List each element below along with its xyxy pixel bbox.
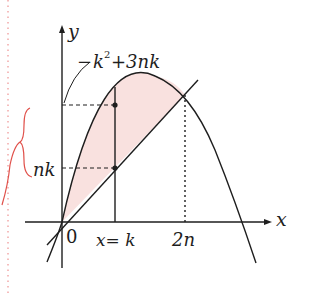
point-line-at-k — [112, 165, 117, 170]
point-parabola-at-k — [112, 102, 117, 107]
origin-label: 0 — [66, 226, 77, 247]
graph-diagram: y x 0 − k 2 +3nk nk x= k 2n — [0, 0, 309, 295]
y-axis-label: y — [67, 20, 79, 42]
top-value-minus: − — [77, 51, 92, 72]
handwritten-brace-annotation — [2, 108, 32, 205]
x-axis-arrow-icon — [264, 219, 272, 225]
top-value-rest: +3nk — [111, 51, 160, 72]
top-value-k: k — [93, 51, 104, 72]
mid-value-label: nk — [33, 159, 56, 180]
vertical-line-label: x= k — [96, 230, 136, 250]
intersection-x-label: 2n — [171, 229, 195, 250]
x-axis-label: x — [276, 208, 287, 230]
shaded-region — [62, 73, 185, 222]
y-axis-arrow-icon — [59, 25, 65, 33]
top-value-exponent: 2 — [104, 49, 110, 60]
